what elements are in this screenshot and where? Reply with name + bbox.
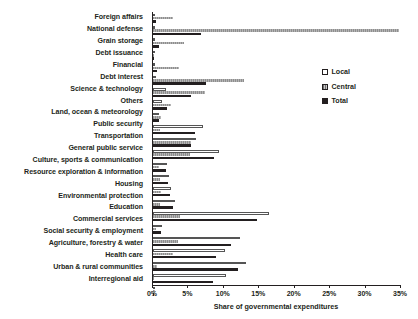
legend-item[interactable]: Total <box>322 97 356 105</box>
bar-local <box>153 163 167 166</box>
bar-local <box>153 88 166 91</box>
x-axis-tick <box>329 285 330 288</box>
bar-group <box>153 173 401 185</box>
bar-total <box>153 95 191 98</box>
x-axis-title: Share of governmental expenditures <box>152 302 400 311</box>
bar-central <box>153 67 179 70</box>
category-label: Education <box>0 202 148 214</box>
bar-total <box>153 231 161 234</box>
bar-total <box>153 45 159 48</box>
bar-total <box>153 70 157 73</box>
bar-group <box>153 24 401 36</box>
bar-group <box>153 62 401 74</box>
bar-central <box>153 253 173 256</box>
x-axis-tick <box>258 285 259 288</box>
bar-central <box>153 240 178 243</box>
bar-total <box>153 244 231 247</box>
bar-local <box>153 125 203 128</box>
bar-group <box>153 148 401 160</box>
bar-group <box>153 211 401 223</box>
category-label: Debt issuance <box>0 48 148 60</box>
bar-total <box>153 194 170 197</box>
bar-central <box>153 91 205 94</box>
x-axis-line <box>152 285 400 286</box>
bar-central <box>153 141 191 144</box>
x-axis-tick <box>223 285 224 288</box>
category-label: Public security <box>0 119 148 131</box>
bar-central <box>153 178 160 181</box>
bar-group <box>153 37 401 49</box>
category-axis-labels: Foreign affairsNational defenseGrain sto… <box>0 12 148 285</box>
bar-group <box>153 273 401 285</box>
bar-local <box>153 113 159 116</box>
bar-total <box>153 82 206 85</box>
x-axis-tick-label: 35% <box>393 290 407 297</box>
x-axis-tick <box>294 285 295 288</box>
x-axis-tick-label: 30% <box>358 290 372 297</box>
bar-central <box>153 129 160 132</box>
x-axis-tick-label: 5% <box>182 290 192 297</box>
category-label: Social security & employment <box>0 226 148 238</box>
bar-central <box>153 166 159 169</box>
category-label: Interregional aid <box>0 273 148 285</box>
bar-local <box>153 287 155 290</box>
bar-group <box>153 223 401 235</box>
category-label: Others <box>0 95 148 107</box>
category-label: National defense <box>0 24 148 36</box>
bar-central <box>153 79 244 82</box>
x-axis-tick-label: 25% <box>322 290 336 297</box>
bar-group <box>153 49 401 61</box>
category-label: Land, ocean & meteorology <box>0 107 148 119</box>
bar-local <box>153 237 240 240</box>
category-label: Resource exploration & information <box>0 166 148 178</box>
category-label: Financial <box>0 60 148 72</box>
x-axis-tick-label: 0% <box>147 290 157 297</box>
bar-total <box>153 206 173 209</box>
x-axis-tick <box>187 285 188 288</box>
x-axis-tick-label: 10% <box>216 290 230 297</box>
category-label: Agriculture, forestry & water <box>0 238 148 250</box>
bar-central <box>153 265 157 268</box>
legend-label: Central <box>332 83 356 91</box>
bar-central <box>153 228 156 231</box>
bar-total <box>153 182 168 185</box>
legend-item[interactable]: Local <box>322 68 356 76</box>
x-axis-tick <box>400 285 401 288</box>
bar-central <box>153 54 154 57</box>
bar-central <box>153 191 161 194</box>
bar-total <box>153 20 156 23</box>
bar-local <box>153 262 246 265</box>
legend-item[interactable]: Central <box>322 83 356 91</box>
x-axis-tick <box>152 285 153 288</box>
bar-local <box>153 187 171 190</box>
plot-area <box>152 12 401 285</box>
bar-central <box>153 215 180 218</box>
bar-group <box>153 136 401 148</box>
bar-local <box>153 100 162 103</box>
bar-central <box>153 29 399 32</box>
bar-group <box>153 186 401 198</box>
bar-central <box>153 104 171 107</box>
bar-central <box>153 116 161 119</box>
bar-total <box>153 219 257 222</box>
legend-label: Total <box>332 97 348 105</box>
bar-total <box>153 132 195 135</box>
bar-total <box>153 256 216 259</box>
category-label: Debt interest <box>0 71 148 83</box>
bar-local <box>153 26 155 29</box>
bar-local <box>153 76 156 79</box>
category-label: Health care <box>0 250 148 262</box>
bar-local <box>153 249 225 252</box>
bar-local <box>153 51 155 54</box>
bar-group <box>153 99 401 111</box>
bar-central <box>153 153 190 156</box>
bar-total <box>153 157 214 160</box>
bar-local <box>153 212 269 215</box>
chart-legend: LocalCentralTotal <box>322 68 356 105</box>
bar-chart: Foreign affairsNational defenseGrain sto… <box>0 0 418 319</box>
legend-swatch-icon <box>322 84 328 90</box>
x-axis-tick <box>365 285 366 288</box>
bar-local <box>153 200 175 203</box>
bar-central <box>153 277 154 280</box>
bar-local <box>153 14 155 17</box>
